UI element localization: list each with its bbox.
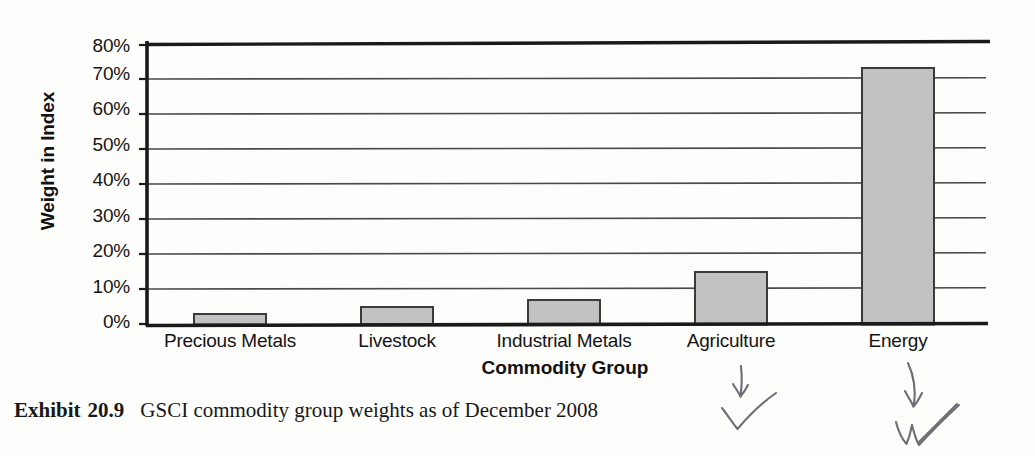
x-tick-label-agriculture: Agriculture xyxy=(661,330,801,352)
x-tick-label-industrial-metals: Industrial Metals xyxy=(494,330,634,352)
bar-precious-metals xyxy=(194,314,266,325)
x-tick-label-energy: Energy xyxy=(828,330,968,352)
x-tick-label-livestock: Livestock xyxy=(327,330,467,352)
bar-livestock xyxy=(361,307,433,325)
bar-energy xyxy=(862,68,934,325)
gridlines xyxy=(146,78,986,289)
caption-description: GSCI commodity group weights as of Decem… xyxy=(140,398,598,422)
bar-agriculture xyxy=(695,272,767,325)
x-axis-line xyxy=(146,324,988,326)
handwritten-arrow-check-annotation-1 xyxy=(696,362,806,452)
handwritten-arrow-check-annotation-2 xyxy=(858,360,988,456)
bar-chart: Weight in Index 80% 70% 60% 50% 40% 30% … xyxy=(0,0,1035,390)
x-tick-label-precious-metals: Precious Metals xyxy=(160,330,300,352)
bars xyxy=(194,68,934,325)
bar-industrial-metals xyxy=(528,300,600,325)
scanned-figure-page: Weight in Index 80% 70% 60% 50% 40% 30% … xyxy=(0,0,1035,456)
plot-top-border xyxy=(146,42,990,45)
caption-exhibit-word: Exhibit xyxy=(14,398,81,422)
caption-exhibit-number: 20.9 xyxy=(88,398,125,422)
figure-caption: Exhibit20.9GSCI commodity group weights … xyxy=(14,398,598,423)
